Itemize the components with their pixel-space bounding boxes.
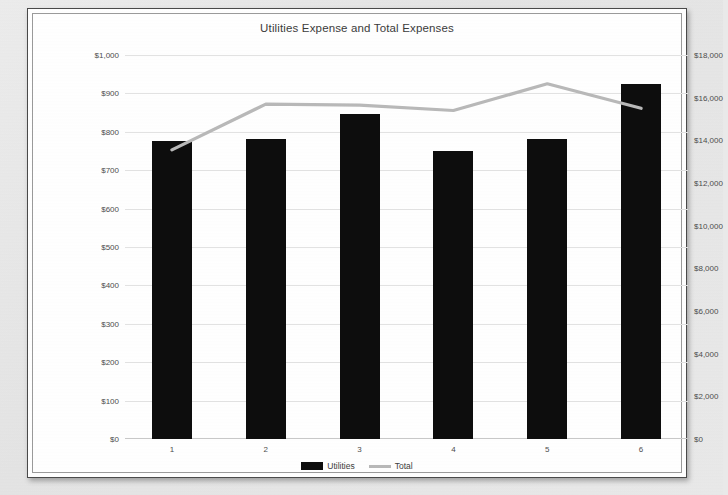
x-axis-tick-label: 4 bbox=[433, 445, 473, 454]
x-axis-tick-label: 5 bbox=[527, 445, 567, 454]
left-axis-tick-label: $400 bbox=[73, 281, 119, 290]
right-axis-tick-label: $18,000 bbox=[694, 51, 728, 60]
plot-area: $0$100$200$300$400$500$600$700$800$900$1… bbox=[125, 55, 688, 439]
legend-item-utilities: Utilities bbox=[301, 461, 354, 471]
legend-swatch-line-icon bbox=[369, 465, 391, 468]
left-axis-tick-label: $500 bbox=[73, 243, 119, 252]
legend-item-total: Total bbox=[369, 461, 413, 471]
x-axis-tick-label: 2 bbox=[246, 445, 286, 454]
chart-plot-container: Utilities Expense and Total Expenses $0$… bbox=[32, 13, 682, 473]
right-axis-tick-label: $6,000 bbox=[694, 307, 728, 316]
left-axis-tick-label: $900 bbox=[73, 89, 119, 98]
right-axis-tick-label: $14,000 bbox=[694, 136, 728, 145]
right-axis-tick-label: $4,000 bbox=[694, 349, 728, 358]
legend-swatch-bar-icon bbox=[301, 462, 323, 470]
chart-title: Utilities Expense and Total Expenses bbox=[33, 22, 681, 34]
left-axis-tick-label: $700 bbox=[73, 166, 119, 175]
right-axis-tick-label: $10,000 bbox=[694, 221, 728, 230]
left-axis-tick-label: $600 bbox=[73, 204, 119, 213]
line-series-total bbox=[125, 55, 688, 439]
chart-legend: Utilities Total bbox=[33, 461, 681, 471]
right-axis-tick-label: $2,000 bbox=[694, 392, 728, 401]
right-axis-tick-label: $12,000 bbox=[694, 179, 728, 188]
left-axis-tick-label: $0 bbox=[73, 435, 119, 444]
left-axis-tick-label: $100 bbox=[73, 396, 119, 405]
right-axis-tick-label: $8,000 bbox=[694, 264, 728, 273]
x-axis-tick-label: 1 bbox=[152, 445, 192, 454]
x-axis-tick-label: 6 bbox=[621, 445, 661, 454]
right-axis-tick-label: $16,000 bbox=[694, 93, 728, 102]
x-axis-tick-label: 3 bbox=[340, 445, 380, 454]
left-axis-tick-label: $300 bbox=[73, 319, 119, 328]
right-axis-tick-label: $0 bbox=[694, 435, 728, 444]
left-axis-tick-label: $1,000 bbox=[73, 51, 119, 60]
left-axis-tick-label: $800 bbox=[73, 127, 119, 136]
legend-label-utilities: Utilities bbox=[327, 461, 354, 471]
left-axis-tick-label: $200 bbox=[73, 358, 119, 367]
legend-label-total: Total bbox=[395, 461, 413, 471]
chart-frame: Utilities Expense and Total Expenses $0$… bbox=[27, 8, 687, 478]
